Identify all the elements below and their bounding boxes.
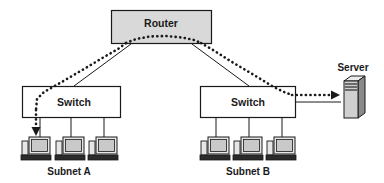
arrowhead-into-server (331, 91, 340, 100)
pc-a1-monitor-screen (32, 140, 48, 152)
server-side-face (358, 76, 365, 118)
arrowhead-down-pc-a1 (32, 127, 41, 136)
workstation-pc-a2[interactable] (55, 137, 85, 160)
pc-a3-monitor-screen (99, 140, 115, 152)
pc-b3-tower (267, 141, 273, 155)
workstation-pc-b2[interactable] (233, 137, 263, 160)
router-label: Router (144, 17, 178, 29)
router-node[interactable]: Router (112, 11, 212, 44)
switch-a-node[interactable]: Switch (23, 87, 121, 118)
subnet-b-label: Subnet B (226, 166, 270, 177)
pc-a3-base (88, 155, 118, 160)
pc-a2-base (55, 155, 85, 160)
pc-b1-base (200, 155, 230, 160)
switch-a-label: Switch (57, 96, 91, 108)
link-router-to-switch-b (192, 44, 249, 86)
switch-b-node[interactable]: Switch (201, 87, 296, 118)
pc-b2-base (233, 155, 263, 160)
pc-b1-tower (201, 141, 207, 155)
server-label: Server (337, 62, 368, 73)
pc-a3-tower (89, 141, 95, 155)
pc-a1-tower (22, 141, 28, 155)
pc-a1-base (21, 155, 51, 160)
pc-b3-monitor-screen (277, 140, 293, 152)
workstation-pc-b1[interactable] (200, 137, 230, 160)
server-node[interactable]: Server (337, 62, 368, 118)
pc-b2-monitor-screen (244, 140, 260, 152)
pc-a2-tower (56, 141, 62, 155)
subnet-a-label: Subnet A (47, 166, 91, 177)
workstation-pc-b3[interactable] (266, 137, 296, 160)
link-router-to-switch-a (74, 44, 131, 86)
workstation-pc-a3[interactable] (88, 137, 118, 160)
pc-b1-monitor-screen (211, 140, 227, 152)
switch-b-label: Switch (231, 96, 265, 108)
pc-a2-monitor-screen (66, 140, 82, 152)
workstation-pc-a1[interactable] (21, 137, 51, 160)
pc-b2-tower (234, 141, 240, 155)
pc-b3-base (266, 155, 296, 160)
network-diagram-canvas: Router Switch Switch (0, 0, 384, 183)
network-diagram: Router Switch Switch (0, 0, 384, 183)
